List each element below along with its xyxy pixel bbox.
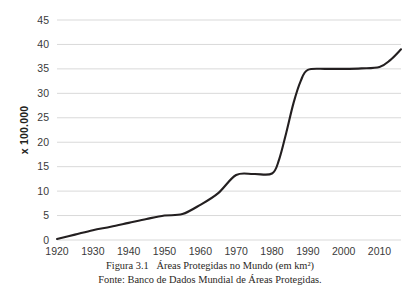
- y-tick-label: 45: [37, 14, 49, 26]
- gridlines-group: [57, 20, 401, 240]
- x-tick-label: 1950: [153, 245, 177, 257]
- x-tick-label: 2000: [332, 245, 356, 257]
- caption-title-line: Figura 3.1 Áreas Protegidas no Mundo (em…: [0, 259, 420, 273]
- y-axis-title: x 100.000: [18, 20, 30, 240]
- x-tick-label: 1930: [81, 245, 105, 257]
- line-chart-svg: 051015202530354045 192019301940195019601…: [0, 0, 420, 258]
- y-tick-label: 15: [37, 160, 49, 172]
- x-tick-label: 2010: [368, 245, 392, 257]
- figure-caption: Figura 3.1 Áreas Protegidas no Mundo (em…: [0, 259, 420, 286]
- y-tick-label: 5: [43, 209, 49, 221]
- x-tick-label: 1970: [224, 245, 248, 257]
- y-tick-label: 20: [37, 136, 49, 148]
- data-series-line: [57, 49, 401, 239]
- chart-plot-area: 051015202530354045 192019301940195019601…: [0, 0, 420, 258]
- x-tick-label: 1940: [117, 245, 141, 257]
- x-tick-label: 1960: [189, 245, 213, 257]
- x-tick-label: 1980: [260, 245, 284, 257]
- y-tick-label-group: 051015202530354045: [37, 14, 49, 246]
- figure-container: 051015202530354045 192019301940195019601…: [0, 0, 420, 291]
- caption-source-line: Fonte: Banco de Dados Mundial de Áreas P…: [0, 273, 420, 287]
- y-tick-label: 10: [37, 185, 49, 197]
- x-tick-label: 1920: [45, 245, 69, 257]
- x-tick-label-group: 1920193019401950196019701980199020002010: [45, 245, 391, 257]
- y-tick-label: 25: [37, 111, 49, 123]
- y-tick-label: 35: [37, 62, 49, 74]
- y-tick-label: 30: [37, 87, 49, 99]
- x-tick-label: 1990: [296, 245, 320, 257]
- y-tick-label: 40: [37, 38, 49, 50]
